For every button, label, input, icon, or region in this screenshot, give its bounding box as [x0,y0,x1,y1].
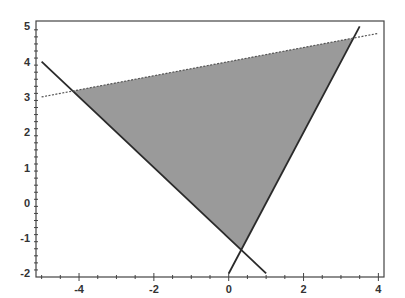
y-tick-label: 1 [24,162,30,174]
y-tick-label: 3 [24,91,30,103]
plot-area [42,26,379,273]
y-tick-label: 5 [24,20,30,32]
y-tick-label: 2 [24,126,30,138]
x-tick-label: -2 [149,283,159,295]
x-tick-label: 2 [300,283,306,295]
shaded-region [73,38,354,250]
x-tick-label: -4 [74,283,85,295]
x-tick-label: 0 [226,283,232,295]
y-tick-label: 0 [24,197,30,209]
chart: -2-1012345-4-2024 [0,0,405,298]
y-tick-label: -1 [20,232,30,244]
y-tick-label: -2 [20,267,30,279]
x-tick-label: 4 [375,283,382,295]
y-tick-label: 4 [24,56,31,68]
